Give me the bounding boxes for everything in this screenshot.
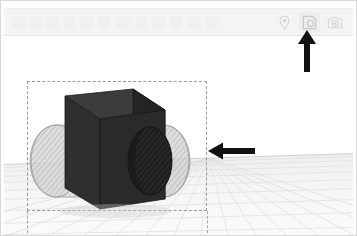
toolbar-left-ghost-controls	[12, 13, 232, 33]
arrow-up-annotation	[296, 30, 318, 72]
camera-icon[interactable]	[324, 12, 345, 33]
cylinder-bore	[128, 127, 172, 195]
app-root	[0, 0, 357, 236]
arrow-left-annotation	[208, 140, 256, 162]
location-pin-icon[interactable]	[274, 12, 295, 33]
